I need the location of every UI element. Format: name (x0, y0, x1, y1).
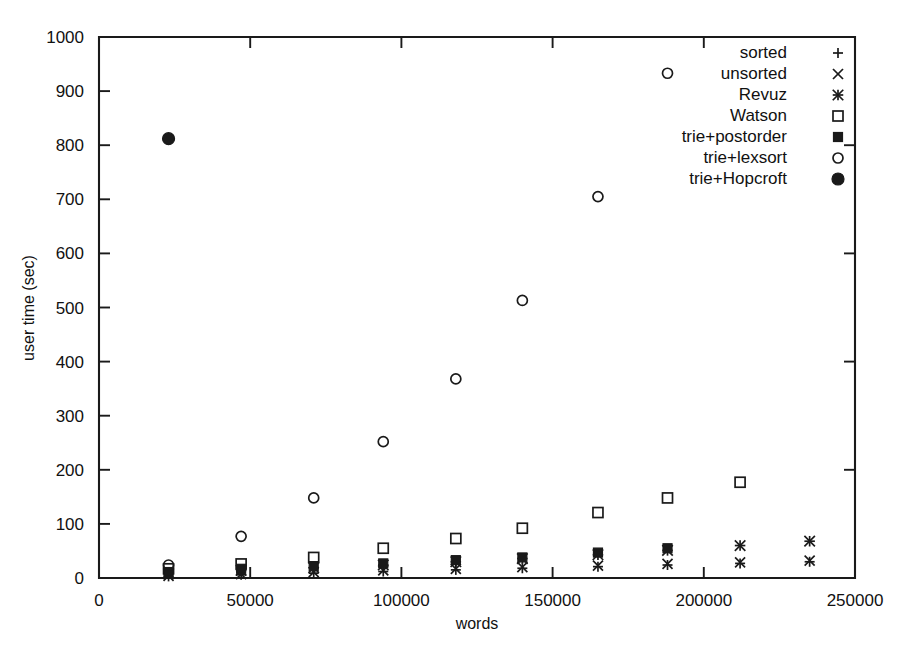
data-point-open-square (309, 552, 319, 562)
legend-marker-open-square (833, 111, 843, 121)
data-point-open-square (378, 543, 388, 553)
data-point-filled-circle (163, 133, 175, 145)
data-point-open-circle (517, 295, 527, 305)
data-point-asterisk (735, 540, 746, 551)
data-point-filled-square (593, 548, 602, 557)
y-tick-label: 300 (56, 407, 84, 426)
scatter-plot-figure: 01002003004005006007008009001000 0500001… (0, 0, 903, 653)
legend-label-trie-postorder: trie+postorder (682, 127, 788, 146)
data-point-open-circle (451, 374, 461, 384)
x-tick-label: 100000 (373, 591, 430, 610)
legend-marker-open-circle (833, 153, 843, 163)
chart-legend: sortedunsortedRevuzWatsontrie+postordert… (682, 43, 844, 188)
legend-marker-filled-square (834, 133, 843, 142)
series-trie-Hopcroft (163, 133, 175, 145)
data-point-filled-square (663, 544, 672, 553)
y-tick-label: 900 (56, 82, 84, 101)
legend-label-trie-Hopcroft: trie+Hopcroft (689, 169, 787, 188)
legend-label-Revuz: Revuz (739, 85, 787, 104)
data-point-open-circle (663, 68, 673, 78)
data-point-filled-square (237, 564, 246, 573)
x-axis-title: words (455, 615, 499, 632)
y-tick-label: 1000 (46, 28, 84, 47)
data-point-open-circle (378, 437, 388, 447)
x-tick-label: 250000 (827, 591, 884, 610)
data-point-filled-square (451, 556, 460, 565)
x-tick-label: 150000 (524, 591, 581, 610)
chart-canvas: 01002003004005006007008009001000 0500001… (0, 0, 903, 653)
series-trie-lexsort (164, 68, 673, 570)
legend-label-unsorted: unsorted (721, 64, 787, 83)
y-tick-label: 800 (56, 136, 84, 155)
y-tick-label: 500 (56, 299, 84, 318)
legend-label-sorted: sorted (740, 43, 787, 62)
y-tick-label: 0 (75, 569, 84, 588)
data-point-open-circle (236, 531, 246, 541)
data-point-open-circle (593, 192, 603, 202)
y-axis-title: user time (sec) (20, 255, 37, 361)
data-point-open-square (735, 477, 745, 487)
data-point-open-square (517, 523, 527, 533)
data-point-open-square (663, 493, 673, 503)
data-point-open-square (593, 508, 603, 518)
data-point-open-circle (309, 493, 319, 503)
legend-label-Watson: Watson (730, 106, 787, 125)
legend-label-trie-lexsort: trie+lexsort (703, 148, 787, 167)
series-Revuz (163, 536, 815, 579)
legend-marker-filled-circle (832, 173, 844, 185)
y-tick-label: 400 (56, 353, 84, 372)
legend-marker-plus (833, 48, 843, 58)
data-point-filled-square (518, 553, 527, 562)
y-tick-label: 200 (56, 461, 84, 480)
x-tick-label: 50000 (227, 591, 274, 610)
x-tick-label: 200000 (675, 591, 732, 610)
x-tick-label: 0 (94, 591, 103, 610)
data-point-asterisk (804, 536, 815, 547)
data-point-open-square (451, 534, 461, 544)
legend-marker-cross (833, 69, 843, 79)
data-point-filled-square (309, 562, 318, 571)
y-tick-label: 700 (56, 190, 84, 209)
y-tick-label: 100 (56, 515, 84, 534)
y-tick-label: 600 (56, 244, 84, 263)
data-point-filled-square (379, 559, 388, 568)
legend-marker-asterisk (833, 90, 844, 101)
series-trie-postorder (164, 544, 672, 577)
